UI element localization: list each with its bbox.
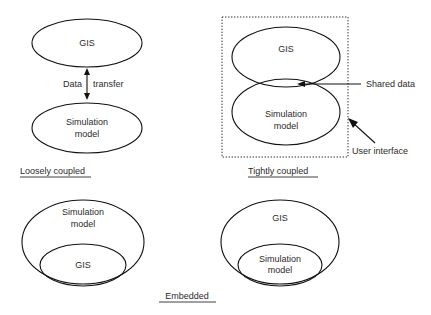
simulation-model-label-line2: model bbox=[75, 129, 100, 139]
data-transfer-label-left: Data bbox=[63, 79, 82, 89]
simulation-model-inner-label-line2: model bbox=[268, 265, 293, 275]
simulation-model-label-line1: Simulation bbox=[62, 207, 104, 217]
gis-label: GIS bbox=[278, 44, 294, 54]
caption-tightly-coupled: Tightly coupled bbox=[248, 166, 308, 176]
caption-embedded-group: Embedded bbox=[159, 291, 216, 302]
gis-inner-label: GIS bbox=[75, 260, 91, 270]
gis-ellipse bbox=[232, 27, 340, 87]
panel-tightly-coupled: GIS Simulation model Shared data User in… bbox=[222, 17, 415, 177]
diagram-canvas: GIS Data transfer Simulation model Loose… bbox=[0, 0, 431, 315]
simulation-model-ellipse bbox=[32, 103, 142, 153]
shared-data-label: Shared data bbox=[366, 79, 415, 89]
coupling-approaches-diagram: GIS Data transfer Simulation model Loose… bbox=[0, 0, 431, 315]
simulation-model-label-line2: model bbox=[71, 219, 96, 229]
user-interface-callout-arrow bbox=[348, 118, 375, 143]
user-interface-label: User interface bbox=[352, 146, 408, 156]
simulation-model-label-line2: model bbox=[274, 121, 299, 131]
simulation-model-inner-label-line1: Simulation bbox=[259, 254, 301, 264]
gis-outer-label: GIS bbox=[272, 213, 288, 223]
panel-embedded-gis-in-model: Simulation model GIS bbox=[22, 200, 144, 286]
simulation-model-label-line1: Simulation bbox=[265, 109, 307, 119]
panel-embedded-model-in-gis: GIS Simulation model bbox=[221, 200, 339, 286]
data-transfer-label-right: transfer bbox=[93, 79, 124, 89]
caption-loosely-coupled: Loosely coupled bbox=[20, 166, 85, 176]
simulation-model-label-line1: Simulation bbox=[66, 117, 108, 127]
data-transfer-arrow bbox=[84, 68, 90, 100]
panel-loosely-coupled: GIS Data transfer Simulation model Loose… bbox=[20, 19, 142, 177]
gis-label: GIS bbox=[79, 38, 95, 48]
caption-embedded: Embedded bbox=[165, 291, 209, 301]
